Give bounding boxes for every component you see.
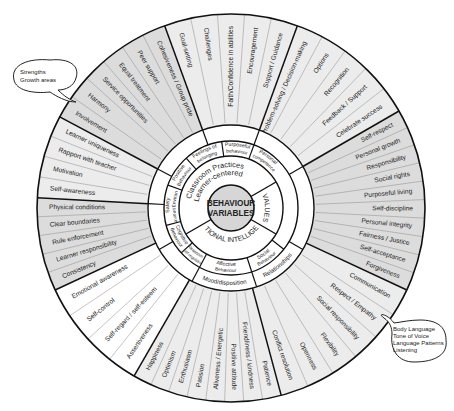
ring4-divider: [148, 204, 164, 205]
callout-language-patterns: Language Patterns: [393, 340, 444, 346]
item-label: Self-discipline: [372, 204, 413, 212]
item-label: Physical conditions: [49, 203, 106, 211]
item-label: Faith/Confidence in abilities: [227, 25, 234, 106]
callout-strengths-line: Strengths: [20, 69, 46, 75]
callout-growth-line: Growth areas: [20, 77, 56, 83]
center-hub: BEHAVIOUR VARIABLES: [207, 185, 256, 231]
hub-circle: [208, 185, 254, 231]
hub-title-line1: BEHAVIOUR: [207, 199, 256, 208]
ring3-label-text: Safety: [164, 197, 171, 213]
hub-title-line2: VARIABLES: [208, 209, 255, 218]
callout-tone-of-voice: Tone of Voice: [393, 333, 430, 339]
ring3-label: Safety: [164, 197, 171, 213]
callout-body-language: Body Language: [393, 326, 436, 332]
behaviour-variables-wheel: ConsistencyLearner responsibilityRule en…: [0, 0, 454, 411]
item-label: Positive attitude: [230, 343, 238, 390]
callout-listening: Listening: [393, 347, 417, 353]
